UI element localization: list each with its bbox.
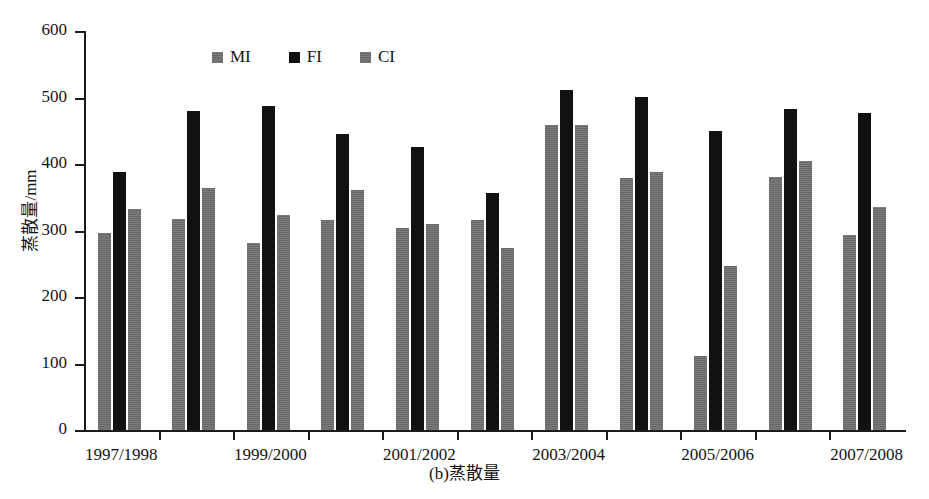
legend-swatch-icon-mi (212, 52, 223, 63)
bar-ci-1999-2000 (277, 215, 290, 430)
y-axis-tick: 0 (75, 430, 84, 432)
x-axis-tick (382, 431, 384, 440)
legend-swatch-icon-ci (360, 52, 371, 63)
x-axis-tick (829, 431, 831, 440)
bar-mi-2000-2001 (321, 220, 334, 430)
y-axis-tick: 100 (75, 364, 84, 366)
legend-item-ci: CI (360, 47, 395, 67)
y-axis-tick-label: 600 (42, 20, 68, 40)
legend-label-fi: FI (307, 47, 322, 67)
y-axis-tick: 400 (75, 164, 84, 166)
bar-fi-2006-2007 (784, 109, 797, 430)
y-axis-tick: 600 (75, 31, 84, 33)
bar-mi-2007-2008 (843, 235, 856, 430)
y-axis-tick-label: 500 (42, 87, 68, 107)
bar-fi-1998-1999 (187, 111, 200, 430)
y-axis-line (84, 31, 86, 430)
bar-ci-2002-2003 (501, 248, 514, 430)
bar-mi-2001-2002 (396, 228, 409, 430)
y-axis-tick-label: 400 (42, 153, 68, 173)
legend-swatch-icon-fi (289, 52, 300, 63)
x-axis-tick (233, 431, 235, 440)
bar-fi-2000-2001 (336, 134, 349, 430)
y-axis-title: 蒸散量/mm (16, 121, 41, 301)
bar-mi-1998-1999 (172, 219, 185, 430)
legend-item-mi: MI (212, 47, 251, 67)
bar-ci-2004-2005 (650, 172, 663, 430)
y-axis-tick-label: 100 (42, 353, 68, 373)
legend-label-ci: CI (378, 47, 395, 67)
bar-ci-2005-2006 (724, 266, 737, 430)
y-axis-tick: 200 (75, 297, 84, 299)
figure-caption: (b)蒸散量 (0, 459, 929, 484)
bar-ci-1997-1998 (128, 209, 141, 430)
x-axis-tick (680, 431, 682, 440)
bar-fi-2001-2002 (411, 147, 424, 430)
bar-fi-2002-2003 (486, 193, 499, 430)
y-axis-tick: 300 (75, 231, 84, 233)
x-axis-tick (159, 431, 161, 440)
bar-ci-1998-1999 (202, 188, 215, 430)
legend-item-fi: FI (289, 47, 322, 67)
bar-mi-2005-2006 (694, 356, 707, 430)
x-axis-tick (457, 431, 459, 440)
bar-mi-2002-2003 (471, 220, 484, 430)
bar-mi-1999-2000 (247, 243, 260, 430)
y-axis-tick: 500 (75, 98, 84, 100)
legend-label-mi: MI (230, 47, 251, 67)
y-axis-tick-label: 0 (59, 419, 68, 439)
bar-fi-2005-2006 (709, 131, 722, 430)
bar-mi-2003-2004 (545, 125, 558, 430)
x-axis-tick (531, 431, 533, 440)
bar-ci-2001-2002 (426, 224, 439, 430)
y-axis-tick-label: 200 (42, 286, 68, 306)
x-axis-tick (308, 431, 310, 440)
bar-fi-2003-2004 (560, 90, 573, 430)
bar-ci-2006-2007 (799, 161, 812, 430)
x-axis-line (84, 430, 906, 432)
bar-fi-1997-1998 (113, 172, 126, 430)
bar-fi-2004-2005 (635, 97, 648, 430)
bar-ci-2007-2008 (873, 207, 886, 430)
evapotranspiration-bar-chart: 蒸散量/mm 6005004003002001000 1997/19981999… (0, 0, 929, 499)
bar-mi-1997-1998 (98, 233, 111, 431)
y-axis-tick-label: 300 (42, 220, 68, 240)
x-axis-tick (755, 431, 757, 440)
chart-legend: MIFICI (212, 47, 395, 67)
bar-fi-1999-2000 (262, 106, 275, 430)
x-axis-tick (606, 431, 608, 440)
bar-ci-2003-2004 (575, 125, 588, 430)
bar-ci-2000-2001 (351, 190, 364, 430)
bar-fi-2007-2008 (858, 113, 871, 430)
bar-mi-2006-2007 (769, 177, 782, 430)
bar-mi-2004-2005 (620, 178, 633, 430)
plot-area: 6005004003002001000 1997/19981999/200020… (84, 31, 904, 430)
